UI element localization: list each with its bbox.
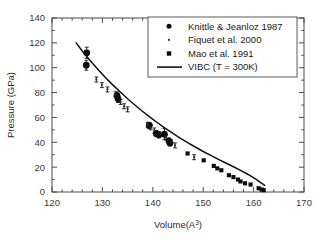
data-point [101, 84, 103, 86]
data-point [215, 166, 219, 170]
x-tick-label: 150 [195, 197, 211, 208]
legend-marker-filled-circle [167, 24, 172, 29]
data-point [106, 88, 108, 90]
data-point [95, 78, 97, 80]
data-point [165, 136, 167, 138]
legend-marker-small-dot [168, 39, 170, 41]
data-point [170, 141, 172, 143]
data-point [147, 124, 149, 126]
y-tick-label: 120 [29, 37, 45, 48]
x-axis-title: Volume(A3) [154, 219, 202, 230]
data-point [161, 131, 168, 138]
data-point [193, 156, 195, 158]
y-tick-label: 100 [29, 62, 45, 73]
data-point [123, 105, 125, 107]
data-point [238, 179, 242, 183]
data-point [83, 62, 90, 69]
legend-marker-filled-square [167, 51, 171, 55]
data-point [174, 144, 176, 146]
y-axis-tick-labels: 020406080100120140 [29, 12, 45, 197]
chart-figure: 120130140150160170 020406080100120140 Vo… [0, 0, 325, 240]
data-point [202, 158, 206, 162]
series-2 [186, 151, 266, 192]
legend-label: Fiquet et al. 2000 [188, 34, 261, 45]
data-point [243, 181, 247, 185]
x-tick-label: 160 [246, 197, 262, 208]
y-tick-label: 60 [34, 112, 45, 123]
x-tick-label: 130 [94, 197, 110, 208]
legend-label: Mao et al. 1991 [188, 48, 254, 59]
legend-label: VIBC (T = 300K) [188, 61, 258, 72]
x-tick-label: 120 [44, 197, 60, 208]
data-point [167, 140, 174, 147]
y-tick-label: 0 [40, 186, 45, 197]
x-tick-label: 170 [296, 197, 312, 208]
data-point [119, 101, 121, 103]
data-point [127, 108, 129, 110]
legend-label: Knittle & Jeanloz 1987 [188, 21, 283, 32]
data-point [262, 188, 266, 192]
data-point [150, 126, 152, 128]
data-point [219, 168, 223, 172]
data-point [231, 175, 235, 179]
chart-legend: Knittle & Jeanloz 1987Fiquet et al. 2000… [148, 17, 297, 77]
x-tick-label: 140 [145, 197, 161, 208]
y-tick-label: 40 [34, 137, 45, 148]
data-point [212, 164, 216, 168]
data-point [186, 151, 190, 155]
y-tick-label: 80 [34, 87, 45, 98]
series-1 [94, 77, 196, 160]
data-point [153, 129, 155, 131]
data-point [114, 93, 116, 95]
y-tick-label: 20 [34, 162, 45, 173]
y-tick-label: 140 [29, 12, 45, 23]
data-point [249, 182, 253, 186]
y-axis-title: Pressure (GPa) [5, 72, 16, 138]
data-point [83, 49, 90, 56]
data-point [227, 173, 231, 177]
pressure-volume-scatter-plot: 120130140150160170 020406080100120140 Vo… [0, 0, 325, 240]
x-axis-tick-labels: 120130140150160170 [44, 197, 312, 208]
